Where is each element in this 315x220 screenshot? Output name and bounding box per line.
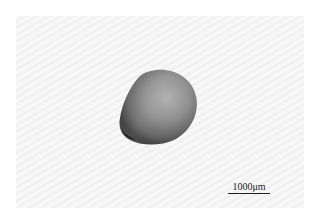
scale-bar-line <box>228 193 270 194</box>
seed-specimen <box>116 66 200 146</box>
scale-bar: 1000μm <box>224 181 274 194</box>
scale-bar-label: 1000μm <box>224 181 274 192</box>
micrograph-figure: 1000μm <box>0 0 315 220</box>
